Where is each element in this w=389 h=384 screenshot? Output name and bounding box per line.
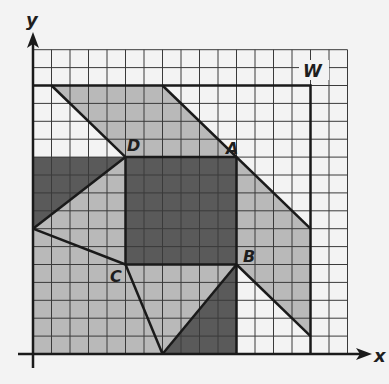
- y-axis-label: y: [26, 9, 39, 30]
- x-axis-label: x: [373, 345, 387, 366]
- transformation-diagram: x y W A B C D: [0, 0, 389, 384]
- frame-label-w: W: [303, 61, 323, 81]
- shaded-regions: [33, 86, 311, 355]
- point-label-c: C: [110, 267, 122, 286]
- point-label-a: A: [224, 139, 238, 158]
- point-label-d: D: [127, 136, 140, 155]
- point-label-b: B: [243, 247, 255, 266]
